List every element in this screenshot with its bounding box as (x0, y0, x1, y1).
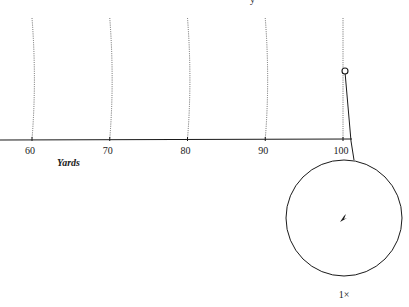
tick-label-100: 100 (334, 145, 349, 156)
axis-label-yards: Yards (57, 157, 80, 168)
leader-line-lower (351, 141, 354, 160)
yardage-axis (0, 139, 352, 140)
ball-marker (342, 68, 348, 74)
tick-labels: 60708090100 (25, 145, 349, 156)
tick-label-70: 70 (103, 145, 113, 156)
tick-label-60: 60 (25, 145, 35, 156)
distance-line-70 (110, 18, 112, 139)
yardage-diagram: y 60708090100 Yards 1× (0, 0, 409, 307)
tick-label-90: 90 (258, 145, 268, 156)
leader-line-upper (345, 72, 351, 141)
magnification-label: 1× (339, 289, 350, 300)
distance-line-80 (188, 18, 190, 139)
caption-fragment: y (250, 0, 255, 5)
target-point-icon (340, 214, 347, 222)
distance-line-60 (32, 18, 34, 139)
distance-line-90 (265, 18, 267, 139)
distance-lines (32, 18, 343, 141)
tick-label-80: 80 (181, 145, 191, 156)
